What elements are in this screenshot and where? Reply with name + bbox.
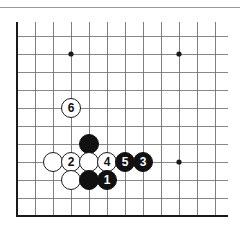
- stone-black-5: 5: [115, 152, 135, 172]
- star-point-2: [176, 51, 181, 56]
- stone-white-6: 6: [61, 98, 81, 118]
- stone-move-number: 6: [62, 99, 80, 117]
- stone-move-number: 4: [98, 153, 116, 171]
- stone-move-number: 5: [116, 153, 134, 171]
- stone-white-plain-3: [61, 170, 81, 190]
- stone-move-number: 1: [98, 171, 116, 189]
- stone-white-plain-1: [43, 152, 63, 172]
- stone-move-number: 3: [134, 153, 152, 171]
- stone-black-plain-2: [79, 170, 99, 190]
- stone-white-2: 2: [61, 152, 81, 172]
- stone-move-number: 2: [62, 153, 80, 171]
- star-point-3: [176, 159, 181, 164]
- stone-black-3: 3: [133, 152, 153, 172]
- star-point-1: [68, 51, 73, 56]
- stone-white-4: 4: [97, 152, 117, 172]
- go-board-grid: [0, 0, 240, 234]
- stone-white-plain-2: [79, 152, 99, 172]
- go-diagram-figure: 624531: [0, 0, 240, 234]
- stone-black-plain-1: [79, 134, 99, 154]
- stone-black-1: 1: [97, 170, 117, 190]
